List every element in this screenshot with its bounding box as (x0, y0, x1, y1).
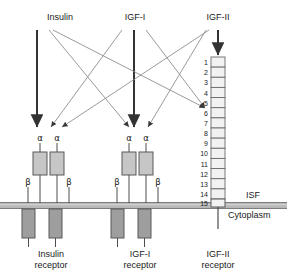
igf2-repeat-number: 6 (192, 109, 208, 116)
arrow-igf1-to-insulin-receptor (51, 30, 122, 127)
arrow-igf2-to-insulin-receptor (62, 30, 209, 127)
igf2-repeat-number: 4 (192, 89, 208, 96)
receptor-name-igf1: IGF-I receptor (123, 249, 156, 271)
beta-subunit-box (111, 209, 124, 238)
igf2-repeat-box (211, 77, 225, 87)
igf2-repeat-number: 14 (192, 190, 208, 197)
receptor-name-line2: receptor (34, 260, 67, 271)
igf2-repeat-number: 8 (192, 130, 208, 137)
igf2-repeat-box (211, 67, 225, 77)
igf2-repeat-number: 12 (192, 170, 208, 177)
beta-label: β (66, 177, 71, 187)
alpha-label: α (143, 133, 149, 143)
igf2-repeat-box (211, 87, 225, 97)
receptor-name-line2: receptor (201, 260, 234, 271)
igf2-repeat-box (211, 148, 225, 158)
beta-label: β (114, 177, 119, 187)
receptor-name-line1: IGF-I (123, 249, 156, 260)
igf2-repeat-box (211, 158, 225, 168)
igf1-receptor-glyph[interactable] (111, 143, 158, 247)
igf2-repeat-number: 2 (192, 69, 208, 76)
alpha-subunit-box (139, 152, 153, 175)
igf2-transmembrane-box (211, 199, 225, 207)
igf2-repeat-number: 1 (192, 59, 208, 66)
igf2-repeat-box (211, 57, 225, 67)
ligand-label-insulin: Insulin (47, 12, 73, 22)
igf2-repeat-number: 5 (192, 99, 208, 106)
ligand-label-igf1: IGF-I (125, 12, 146, 22)
isf-label: ISF (246, 190, 260, 200)
igf2-repeat-box (211, 179, 225, 189)
ligand-label-igf2: IGF-II (207, 12, 230, 22)
igf2-repeat-box (211, 189, 225, 199)
beta-subunit-box (49, 209, 62, 238)
igf2-repeat-box (211, 98, 225, 108)
cognate-ligand-arrows (37, 30, 218, 127)
alpha-label: α (126, 133, 132, 143)
cytoplasm-label: Cytoplasm (228, 210, 271, 220)
igf2-repeat-number: 13 (192, 180, 208, 187)
igf2-repeat-number: 11 (192, 160, 208, 167)
receptor-name-line1: IGF-II (201, 249, 234, 260)
figure-canvas: Insulin IGF-I IGF-II ISF Cytoplasm α α β… (0, 0, 287, 277)
beta-subunit-box (22, 209, 35, 238)
insulin-receptor-glyph[interactable] (22, 143, 69, 247)
alpha-subunit-box (122, 152, 136, 175)
receptor-name-line2: receptor (123, 260, 156, 271)
igf2-repeat-number: 3 (192, 79, 208, 86)
alpha-subunit-box (50, 152, 64, 175)
receptor-name-line1: Insulin (34, 249, 67, 260)
plasma-membrane (0, 202, 287, 209)
igf2-receptor-glyph[interactable] (211, 57, 225, 229)
cross-reaction-arrows (49, 30, 209, 127)
igf2-repeat-number: 9 (192, 140, 208, 147)
igf2-repeat-number: 7 (192, 119, 208, 126)
arrow-insulin-to-igf1-receptor (49, 30, 129, 127)
alpha-subunit-box (33, 152, 47, 175)
igf2-repeat-box (211, 108, 225, 118)
igf2-repeat-box (211, 128, 225, 138)
igf2-repeat-box (211, 118, 225, 128)
igf2-repeat-box (211, 169, 225, 179)
igf2-repeat-number: 15 (192, 200, 208, 207)
igf2-repeat-number: 10 (192, 150, 208, 157)
beta-subunit-box (138, 209, 151, 238)
alpha-label: α (54, 133, 60, 143)
beta-label: β (25, 177, 30, 187)
igf2-repeat-box (211, 138, 225, 148)
alpha-label: α (37, 133, 43, 143)
receptor-name-insulin: Insulin receptor (34, 249, 67, 271)
beta-label: β (155, 177, 160, 187)
receptor-name-igf2: IGF-II receptor (201, 249, 234, 271)
